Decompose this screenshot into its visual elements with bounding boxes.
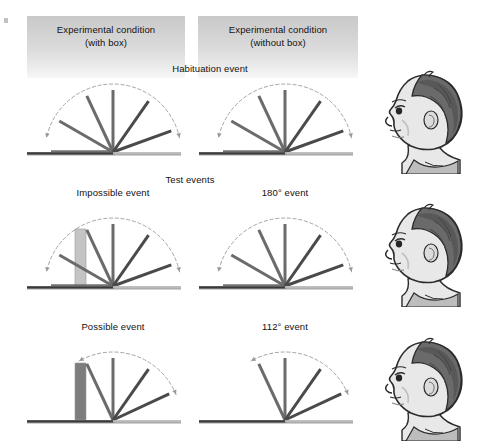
- possible-event-label: Possible event: [81, 321, 144, 332]
- diagram-112-degree-event: [190, 346, 362, 428]
- diagram-habituation-with-box: [18, 78, 190, 160]
- condition-label-with-box-line1: Experimental condition: [57, 24, 155, 35]
- test-events-label: Test events: [165, 174, 214, 185]
- condition-panel-with-box: Experimental condition (with box): [27, 16, 185, 78]
- infant-head-habituation: [378, 70, 470, 174]
- condition-label-without-box-line2: (without box): [198, 37, 358, 50]
- event-180-label: 180° event: [262, 187, 309, 198]
- event-112-label: 112° event: [262, 321, 308, 332]
- condition-label-without-box: Experimental condition (without box): [198, 24, 358, 49]
- condition-label-with-box-line2: (with box): [27, 37, 185, 50]
- impossible-event-label: Impossible event: [77, 187, 150, 198]
- condition-label-without-box-line1: Experimental condition: [229, 24, 327, 35]
- diagram-habituation-without-box: [190, 78, 362, 160]
- scan-artifact: [4, 18, 8, 23]
- diagram-possible-event: [18, 346, 190, 428]
- infant-head-impossible: [378, 203, 470, 307]
- condition-label-with-box: Experimental condition (with box): [27, 24, 185, 49]
- diagram-impossible-event: [18, 212, 190, 294]
- habituation-event-label: Habituation event: [172, 63, 248, 74]
- figure-canvas: Experimental condition (with box) Experi…: [0, 0, 480, 448]
- infant-head-possible: [378, 337, 470, 441]
- diagram-180-degree-event: [190, 212, 362, 294]
